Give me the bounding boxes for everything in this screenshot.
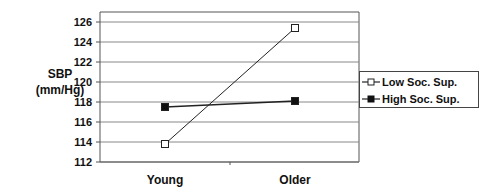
y-tick-label: 112 (74, 156, 92, 168)
y-tick-label: 120 (74, 76, 92, 88)
y-tick-label: 122 (74, 56, 92, 68)
chart-legend: Low Soc. Sup. High Soc. Sup. (359, 71, 479, 108)
filled-square-marker (162, 104, 169, 111)
legend-label: Low Soc. Sup. (382, 76, 457, 88)
y-tick-label: 118 (74, 96, 92, 108)
open-square-marker-icon (362, 77, 380, 87)
y-tick-label: 114 (74, 136, 93, 148)
y-tick-label: 116 (74, 116, 92, 128)
filled-square-marker (292, 98, 299, 105)
filled-square-marker-icon (362, 94, 380, 104)
y-tick-label: 126 (74, 16, 92, 28)
open-square-marker (162, 141, 169, 148)
x-category-label: Young (147, 173, 183, 187)
y-tick-label: 124 (74, 36, 93, 48)
open-square-marker (292, 25, 299, 32)
legend-item-high-soc-sup: High Soc. Sup. (362, 91, 460, 107)
legend-label: High Soc. Sup. (382, 93, 460, 105)
legend-item-low-soc-sup: Low Soc. Sup. (362, 74, 457, 90)
series-line (165, 28, 295, 144)
x-category-label: Older (279, 173, 311, 187)
